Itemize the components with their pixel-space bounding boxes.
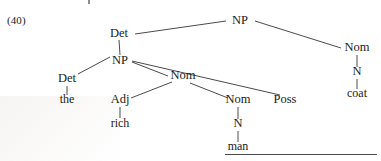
tree-node-rich: rich xyxy=(111,116,130,130)
footer-horizontal-rule xyxy=(225,154,377,155)
tree-node-poss: Poss xyxy=(274,92,297,106)
tree-node-man: man xyxy=(228,139,249,153)
syntax-tree-diagram: NPDetNomNcoatNPDettheNomAdjrichNomNmanPo… xyxy=(0,0,381,161)
tree-node-np-root: NP xyxy=(232,13,248,27)
tree-node-nom-right: Nom xyxy=(345,40,370,54)
figure-page: (40) NPDetNomNcoatNPDettheNomAdjrichNomN… xyxy=(0,0,381,161)
tree-node-nom-mid: Nom xyxy=(171,68,196,82)
tree-edge-np-root-to-det-upper xyxy=(135,21,226,34)
tree-node-det-upper: Det xyxy=(110,26,129,40)
tree-node-np-inner: NP xyxy=(112,53,128,67)
tree-edge-np-inner-to-poss xyxy=(132,61,280,95)
tree-node-n-man: N xyxy=(233,116,242,130)
tree-node-coat: coat xyxy=(347,86,368,100)
tree-node-adj: Adj xyxy=(111,92,130,106)
tree-node-group: NPDetNomNcoatNPDettheNomAdjrichNomNmanPo… xyxy=(58,13,370,153)
tree-node-n-coat: N xyxy=(352,64,361,78)
tree-edge-np-inner-to-det-lower xyxy=(78,57,110,74)
tree-edge-nom-mid-to-adj xyxy=(131,82,172,98)
tree-edge-np-root-to-nom-right xyxy=(255,21,341,48)
tree-node-the: the xyxy=(60,92,75,106)
tree-edge-np-inner-to-nom-mid xyxy=(132,62,168,76)
tree-node-det-lower: Det xyxy=(58,71,77,85)
tree-edge-nom-mid-to-nom-low xyxy=(190,83,228,98)
tree-node-nom-low: Nom xyxy=(226,92,251,106)
